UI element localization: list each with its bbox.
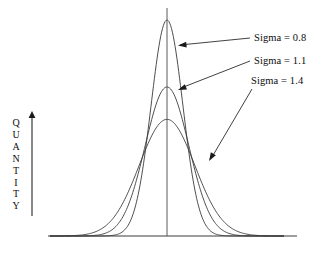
series-label-sigma-11: Sigma = 1.1 (254, 56, 306, 67)
normal-distribution-figure: QUANTITY Sigma = 0.8 Sigma = 1.1 Sigma =… (0, 0, 319, 257)
y-axis-title-letter: T (13, 188, 19, 200)
y-axis-title-letter: Y (12, 200, 19, 212)
y-axis-title-letter: I (14, 177, 17, 189)
annotation-sigma-11-arrow-head (178, 84, 187, 90)
series-label-sigma-08: Sigma = 0.8 (254, 33, 306, 44)
annotation-sigma-08-leader (180, 38, 250, 45)
annotation-leaders-group (178, 38, 252, 161)
y-axis-title-letter: N (12, 153, 19, 165)
series-label-sigma-14: Sigma = 1.4 (251, 76, 303, 87)
y-axis-title-letter: A (12, 141, 19, 153)
annotation-sigma-14-arrow-head (209, 152, 216, 161)
annotation-sigma-08-arrow-head (178, 42, 187, 48)
y-axis-title: QUANTITY (9, 117, 23, 212)
y-axis-arrow-head (29, 111, 36, 118)
y-axis-title-letter: Q (12, 117, 19, 129)
annotation-sigma-14-leader (212, 89, 252, 157)
y-axis-title-letter: T (13, 165, 19, 177)
annotation-sigma-11-leader (181, 61, 250, 88)
y-axis-title-letter: U (12, 129, 19, 141)
